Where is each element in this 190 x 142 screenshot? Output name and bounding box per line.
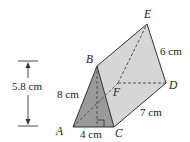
vertex-b-label: B	[86, 53, 93, 65]
vertex-c-label: C	[115, 127, 123, 139]
edge-ab-label: 8 cm	[57, 88, 79, 100]
edge-de-label: 6 cm	[160, 45, 182, 57]
edge-cd-label: 7 cm	[140, 106, 162, 118]
height-dimension	[18, 61, 38, 126]
vertex-d-label: D	[168, 79, 178, 91]
vertex-a-label: A	[55, 125, 64, 137]
vertex-e-label: E	[143, 8, 151, 20]
edge-ac-label: 4 cm	[80, 128, 102, 140]
vertex-f-label: F	[112, 86, 121, 98]
triangular-prism-diagram: 5.8 cm 8 cm 4 cm 7 cm 6 cm A B C D E F	[0, 0, 190, 142]
height-label: 5.8 cm	[12, 80, 42, 92]
